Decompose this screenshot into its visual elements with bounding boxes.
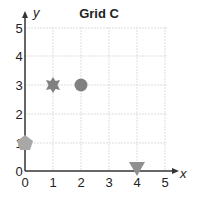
circle-marker-icon [75, 79, 88, 92]
triangle-down-marker-icon [129, 162, 145, 176]
svg-text:3: 3 [105, 175, 112, 190]
chart: Grid C y x 0 1 2 3 4 5 0 1 2 3 4 5 [0, 0, 197, 197]
x-axis-arrow-icon [172, 168, 179, 174]
grid [25, 27, 167, 171]
axes [25, 16, 174, 171]
svg-text:5: 5 [15, 21, 22, 36]
svg-text:2: 2 [15, 107, 22, 122]
svg-text:0: 0 [15, 164, 22, 179]
y-axis-label: y [32, 5, 41, 20]
star-marker-icon [46, 77, 60, 93]
svg-text:4: 4 [15, 49, 22, 64]
x-axis-label: x [179, 166, 187, 181]
svg-text:5: 5 [161, 175, 168, 190]
svg-text:2: 2 [77, 175, 84, 190]
y-ticks: 0 1 2 3 4 5 [15, 21, 22, 179]
y-axis-arrow-icon [22, 11, 28, 18]
svg-text:3: 3 [15, 78, 22, 93]
svg-text:4: 4 [133, 175, 140, 190]
svg-text:1: 1 [49, 175, 56, 190]
x-ticks: 0 1 2 3 4 5 [21, 175, 168, 190]
chart-title: Grid C [79, 6, 119, 21]
